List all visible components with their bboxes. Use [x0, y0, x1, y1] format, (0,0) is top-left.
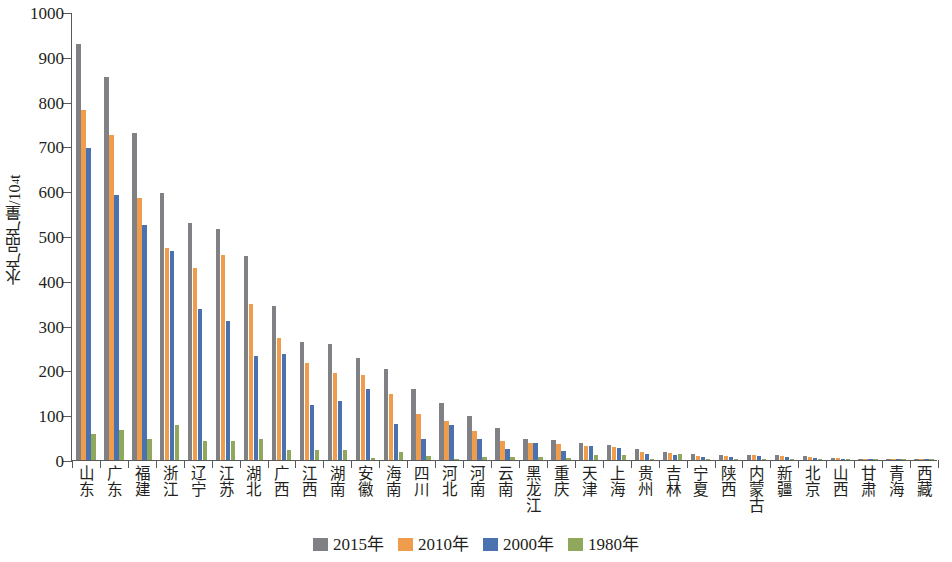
bar	[919, 459, 923, 460]
bar	[673, 455, 677, 460]
bar	[282, 354, 286, 460]
bar	[328, 344, 332, 460]
plot-area: 01002003004005006007008009001000	[71, 13, 937, 461]
bar	[333, 373, 337, 460]
x-axis-label: 青海	[887, 465, 903, 497]
bar-group	[663, 13, 682, 460]
x-axis-label: 内蒙古	[748, 465, 764, 513]
bar	[343, 450, 347, 460]
bar	[198, 309, 202, 460]
bar	[495, 428, 499, 460]
legend-label: 2015年	[333, 536, 384, 553]
bar	[76, 44, 80, 460]
bar	[482, 457, 486, 460]
bar	[734, 459, 738, 460]
bar	[505, 449, 509, 460]
bar	[803, 456, 807, 460]
bar-group	[160, 13, 179, 460]
bar	[300, 342, 304, 460]
legend-swatch	[398, 538, 413, 551]
bar	[91, 434, 95, 460]
legend: 2015年2010年2000年1980年	[0, 536, 952, 553]
bar-group	[104, 13, 123, 460]
legend-item[interactable]: 2010年	[398, 536, 469, 553]
x-axis-label: 浙江	[161, 465, 177, 497]
bar	[175, 425, 179, 460]
bar	[729, 457, 733, 460]
bar	[510, 457, 514, 460]
x-axis-label: 河南	[468, 465, 484, 497]
bar	[81, 110, 85, 460]
bar-group	[635, 13, 654, 460]
bar-group	[579, 13, 598, 460]
bar	[119, 430, 123, 460]
x-axis-label: 安徽	[356, 465, 372, 497]
x-axis-label: 新疆	[775, 465, 791, 497]
bar	[394, 424, 398, 460]
x-axis-label: 吉林	[664, 465, 680, 497]
bar	[635, 449, 639, 460]
bar	[472, 431, 476, 460]
legend-item[interactable]: 2015年	[313, 536, 384, 553]
bar	[747, 455, 751, 460]
bar-group	[356, 13, 375, 460]
x-axis-label: 上海	[608, 465, 624, 497]
bar	[762, 459, 766, 460]
x-axis-label: 辽宁	[189, 465, 205, 497]
bar	[780, 456, 784, 460]
x-axis-label: 广西	[273, 465, 289, 497]
y-axis-tick-label: 200	[39, 363, 73, 380]
y-axis-tick-label: 700	[39, 139, 73, 156]
bar	[216, 229, 220, 460]
y-axis-tick-label: 400	[39, 273, 73, 290]
legend-item[interactable]: 2000年	[483, 536, 554, 553]
y-axis-title-unit: t	[6, 175, 24, 179]
y-axis-tick-label: 900	[39, 49, 73, 66]
bar	[896, 459, 900, 460]
y-axis-tick-label: 600	[39, 184, 73, 201]
bar	[561, 451, 565, 460]
bar	[399, 452, 403, 460]
bar	[523, 439, 527, 460]
bar	[254, 356, 258, 460]
bar	[244, 256, 248, 460]
x-axis-label: 湖南	[328, 465, 344, 497]
bar	[193, 268, 197, 460]
bar	[929, 459, 933, 460]
bar	[785, 457, 789, 460]
bar	[287, 450, 291, 460]
bar	[594, 455, 598, 460]
bar	[231, 441, 235, 460]
bar	[305, 363, 309, 460]
bar	[813, 458, 817, 460]
bar	[858, 459, 862, 460]
y-axis-tick-label: 0	[56, 453, 73, 470]
bar	[444, 421, 448, 460]
bar	[500, 441, 504, 460]
bar	[389, 394, 393, 460]
bar-group	[886, 13, 905, 460]
bar	[86, 148, 90, 460]
x-axis-label: 山东	[77, 465, 93, 497]
bar	[617, 448, 621, 460]
bar-group	[300, 13, 319, 460]
bar-group	[132, 13, 151, 460]
bar	[579, 443, 583, 460]
bar-group	[831, 13, 850, 460]
bar-group	[188, 13, 207, 460]
x-axis-tick	[938, 460, 939, 468]
bar	[226, 321, 230, 460]
bar	[160, 193, 164, 460]
bar-group	[244, 13, 263, 460]
bar-group	[272, 13, 291, 460]
bar	[640, 452, 644, 461]
bar	[132, 133, 136, 460]
bar	[831, 458, 835, 460]
x-axis-label: 广东	[105, 465, 121, 497]
legend-swatch	[483, 538, 498, 551]
legend-item[interactable]: 1980年	[568, 536, 639, 553]
x-axis-label: 江西	[301, 465, 317, 497]
x-axis-label: 福建	[133, 465, 149, 497]
bar	[137, 198, 141, 460]
bar	[846, 459, 850, 460]
